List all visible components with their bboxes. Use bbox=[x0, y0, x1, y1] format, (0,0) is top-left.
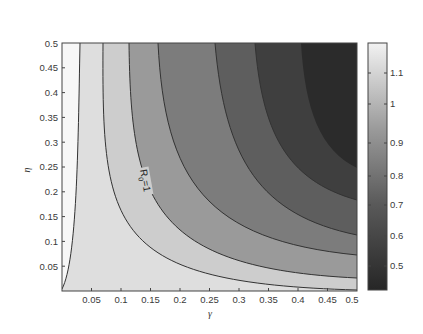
colorbar-tick-label: 1.1 bbox=[390, 67, 403, 78]
y-tick-label: 0.15 bbox=[40, 211, 59, 222]
y-tick-label: 0.2 bbox=[45, 186, 58, 197]
colorbar-gradient bbox=[368, 43, 387, 290]
plot-area: R0=1 bbox=[62, 43, 357, 291]
x-tick-label: 0.2 bbox=[173, 294, 186, 305]
colorbar-tick-label: 1 bbox=[390, 98, 395, 109]
y-tick-label: 0.4 bbox=[45, 87, 58, 98]
y-tick-label: 0.25 bbox=[40, 161, 59, 172]
y-tick-label: 0.5 bbox=[45, 38, 58, 49]
x-tick-label: 0.4 bbox=[291, 294, 304, 305]
x-tick-label: 0.45 bbox=[318, 294, 337, 305]
y-tick-label: 0.45 bbox=[40, 62, 59, 73]
y-tick-label: 0.1 bbox=[45, 236, 58, 247]
x-tick-label: 0.5 bbox=[345, 294, 358, 305]
colorbar-tick-label: 0.6 bbox=[390, 230, 403, 241]
contour-chart: R0=1 0.05 0.1 0.15 0.2 0.25 0.3 0.35 0.4… bbox=[0, 0, 423, 334]
colorbar-tick-label: 0.9 bbox=[390, 137, 403, 148]
x-axis-label: γ bbox=[208, 308, 213, 319]
colorbar: 0.5 0.6 0.7 0.8 0.9 1 1.1 bbox=[368, 43, 403, 290]
x-tick-label: 0.25 bbox=[200, 294, 219, 305]
y-axis-label: η bbox=[21, 167, 32, 172]
x-tick-label: 0.1 bbox=[114, 294, 127, 305]
colorbar-tick-label: 0.5 bbox=[390, 260, 403, 271]
x-tick-label: 0.05 bbox=[82, 294, 101, 305]
x-tick-label: 0.35 bbox=[259, 294, 278, 305]
x-tick-label: 0.15 bbox=[141, 294, 160, 305]
y-tick-label: 0.3 bbox=[45, 137, 58, 148]
x-tick-label: 0.3 bbox=[232, 294, 245, 305]
y-tick-label: 0.35 bbox=[40, 112, 59, 123]
colorbar-tick-label: 0.8 bbox=[390, 170, 403, 181]
x-axis: 0.05 0.1 0.15 0.2 0.25 0.3 0.35 0.4 0.45… bbox=[82, 288, 358, 319]
colorbar-tick-label: 0.7 bbox=[390, 199, 403, 210]
y-tick-label: 0.05 bbox=[40, 261, 59, 272]
y-axis: 0.05 0.1 0.15 0.2 0.25 0.3 0.35 0.4 0.45… bbox=[21, 38, 65, 272]
